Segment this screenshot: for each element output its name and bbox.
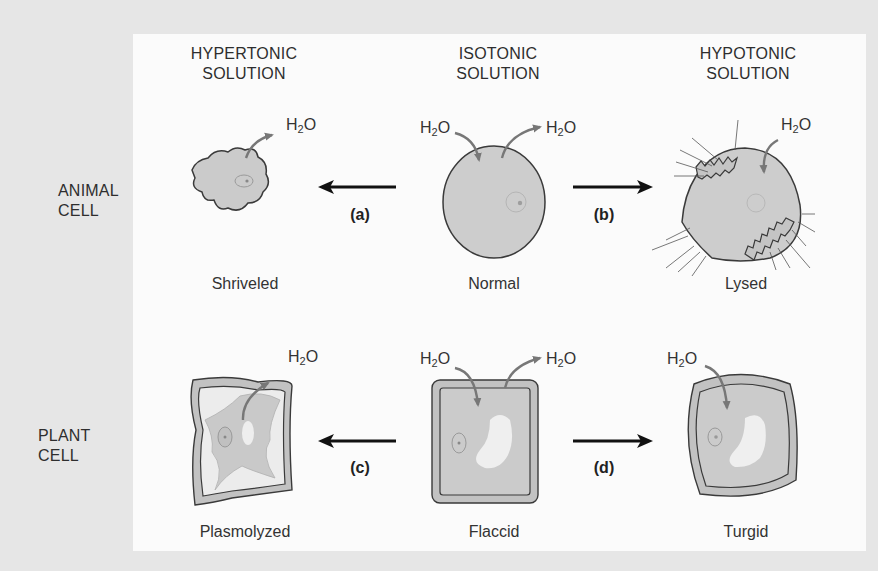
arrow-label-b: (b)	[584, 206, 624, 224]
caption-turgid: Turgid	[666, 523, 826, 541]
water-label: H2O	[781, 116, 811, 134]
lysed-animal-cell-icon	[652, 120, 815, 276]
arrow-label-a: (a)	[340, 206, 380, 224]
water-label: H2O	[420, 119, 450, 137]
water-label: H2O	[286, 116, 316, 134]
caption-plasmolyzed: Plasmolyzed	[165, 523, 325, 541]
arrow-d-icon	[573, 434, 653, 448]
caption-lysed: Lysed	[666, 275, 826, 293]
plasmolyzed-plant-cell-icon	[191, 377, 292, 505]
normal-animal-cell-icon	[443, 127, 545, 258]
caption-flaccid: Flaccid	[414, 523, 574, 541]
water-label: H2O	[546, 119, 576, 137]
arrow-a-icon	[318, 180, 396, 194]
water-label: H2O	[667, 350, 697, 368]
arrow-label-d: (d)	[584, 459, 624, 477]
water-label: H2O	[288, 348, 318, 366]
caption-shriveled: Shriveled	[165, 275, 325, 293]
water-label: H2O	[546, 350, 576, 368]
turgid-plant-cell-icon	[688, 366, 797, 496]
arrow-b-icon	[573, 180, 653, 194]
water-label: H2O	[420, 350, 450, 368]
arrow-label-c: (c)	[340, 459, 380, 477]
shriveled-animal-cell-icon	[192, 135, 272, 210]
arrow-c-icon	[318, 434, 396, 448]
flaccid-plant-cell-icon	[432, 358, 540, 503]
caption-normal: Normal	[414, 275, 574, 293]
